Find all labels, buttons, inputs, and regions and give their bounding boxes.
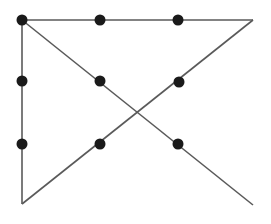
node-top-left xyxy=(17,15,28,26)
node-center-upper-right xyxy=(174,77,185,88)
node-top-right-inner xyxy=(173,15,184,26)
node-center-lower-left xyxy=(95,139,106,150)
figure-canvas xyxy=(0,0,271,224)
node-left-upper xyxy=(17,76,28,87)
node-center-lower-right xyxy=(173,139,184,150)
edges-group xyxy=(22,20,253,205)
figure-svg xyxy=(0,0,271,224)
node-left-lower xyxy=(17,139,28,150)
node-top-middle xyxy=(95,15,106,26)
node-center-upper-left xyxy=(95,76,106,87)
